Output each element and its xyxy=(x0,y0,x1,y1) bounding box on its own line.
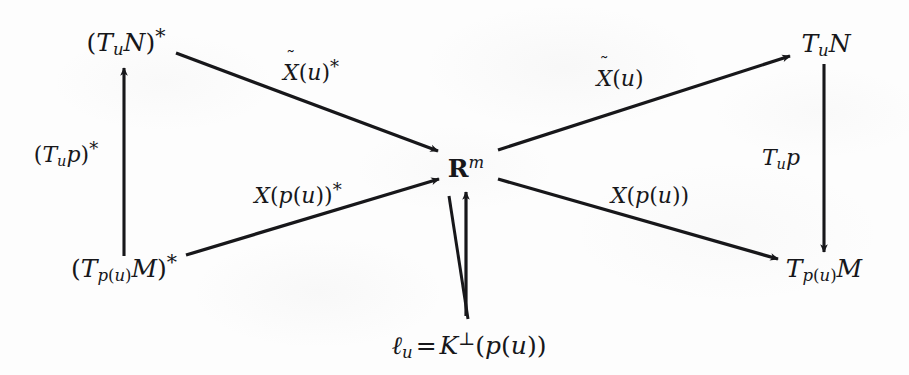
edge-label-left-vertical: (Tup)* xyxy=(34,144,98,166)
node-bottom-center: ℓu=K⊥(p(u)) xyxy=(392,333,547,358)
node-top-right: TuN xyxy=(801,31,850,56)
node-center: Rm xyxy=(448,156,484,181)
node-top-left: (TuN)* xyxy=(87,30,166,55)
commutative-diagram: (TuN)* (Tp(u)M)* Rm TuN Tp(u)M ℓu=K⊥(p(u… xyxy=(0,0,909,375)
edge-label-upper-right: ˜X(u) xyxy=(596,68,643,90)
edge-label-upper-left: ˜X(u)* xyxy=(283,62,339,84)
edge-label-right-vertical: Tup xyxy=(762,147,800,169)
edge-label-lower-left: X(p(u))* xyxy=(254,185,341,207)
node-bottom-left: (Tp(u)M)* xyxy=(71,256,177,281)
edge-label-lower-right: X(p(u)) xyxy=(611,185,689,207)
arrow-center-to-topright xyxy=(498,56,790,150)
node-bottom-right: Tp(u)M xyxy=(786,256,862,281)
